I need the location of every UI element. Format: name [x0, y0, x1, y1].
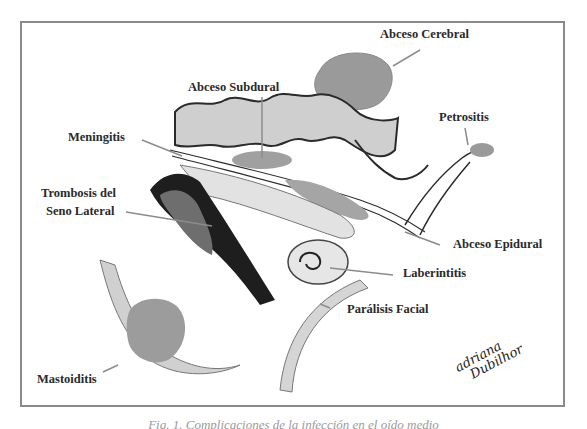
leader-abceso-epidural — [405, 232, 440, 245]
label-trombosis-line1: Trombosis del — [41, 186, 116, 200]
label-abceso-cerebral: Abceso Cerebral — [380, 27, 469, 41]
facial-nerve-canal — [280, 280, 368, 392]
label-abceso-subdural: Abceso Subdural — [188, 80, 279, 94]
label-petrositis: Petrositis — [439, 110, 489, 124]
petrous-ridge — [405, 149, 488, 225]
leader-abceso-cerebral — [393, 50, 420, 66]
label-paralisis-facial: Parálisis Facial — [347, 302, 429, 316]
label-laberintitis: Laberintitis — [403, 266, 466, 280]
figure-caption: Fig. 1. Complicaciones de la infección e… — [0, 418, 587, 429]
petrositis-shape — [470, 143, 494, 157]
label-trombosis-line2: Seno Lateral — [46, 204, 114, 218]
label-meningitis: Meningitis — [68, 130, 125, 144]
leader-petrositis — [465, 128, 468, 145]
label-mastoiditis: Mastoiditis — [37, 372, 97, 386]
mastoid-abscess-shape — [127, 299, 185, 363]
leader-mastoiditis — [103, 365, 118, 372]
labyrinth-shape — [288, 240, 348, 284]
label-abceso-epidural: Abceso Epidural — [453, 237, 542, 251]
